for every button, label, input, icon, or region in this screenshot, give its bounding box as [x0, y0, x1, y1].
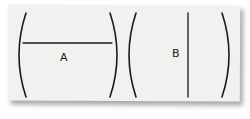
panel-a-label: A: [60, 51, 68, 64]
panel-b-label: B: [172, 47, 180, 60]
panel-b-left-paren: [129, 13, 136, 97]
panel-a: [19, 13, 117, 97]
panel-a-right-paren: [110, 13, 117, 97]
panel-a-left-paren: [19, 13, 26, 97]
panel-b-right-paren: [222, 13, 229, 97]
diagram-canvas: A B: [0, 0, 250, 119]
